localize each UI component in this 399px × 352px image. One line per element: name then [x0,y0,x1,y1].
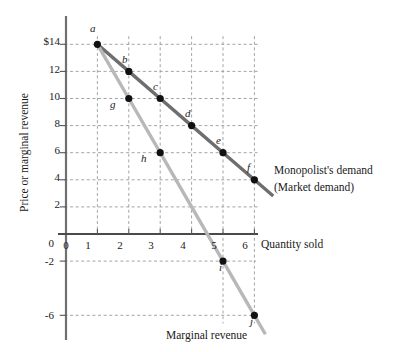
point-label-e: e [216,135,221,146]
marginal-revenue-curve-label: Marginal revenue [166,330,247,342]
point-label-i: i [219,262,222,273]
gridlines-group [64,36,257,323]
y-tick-label-12: 12 [24,64,60,75]
data-point-a [94,41,101,48]
x-tick-label-5: 5 [206,240,222,251]
y-tick-label-14: $14 [24,36,60,47]
point-label-h: h [141,153,147,164]
x-tick-label-2: 2 [112,240,128,251]
data-point-f [251,176,258,183]
y-tick-label-2: 2 [24,199,60,210]
x-tick-label-3: 3 [143,240,159,251]
marginal-revenue-curve-line [97,44,265,334]
y-tick-label-0: 0 [24,238,54,249]
data-point-d [188,122,195,129]
x-tick-label-0: 0 [58,240,74,251]
data-point-b [125,68,132,75]
data-series-group [97,44,273,334]
point-label-b: b [122,54,128,65]
y-tick-label-10: 10 [24,91,60,102]
demand-curve-label-line2: (Market demand) [274,182,354,194]
x-tick-label-1: 1 [80,240,96,251]
y-tick-label-minus2: -2 [20,256,54,267]
x-tick-label-4: 4 [175,240,191,251]
y-tick-label-8: 8 [24,118,60,129]
demand-curve-label-line1: Monopolist's demand [274,165,373,177]
point-label-a: a [90,23,96,34]
point-label-c: c [153,81,158,92]
y-tick-label-4: 4 [24,172,60,183]
point-label-g: g [110,99,116,110]
y-tick-label-minus6: -6 [20,310,54,321]
point-label-j: j [250,316,253,327]
data-point-g [125,95,132,102]
point-label-d: d [185,108,191,119]
data-point-c [157,95,164,102]
chart-container: Price or marginal revenue Quantity sold … [0,0,399,352]
point-label-f: f [247,162,250,173]
demand-curve-line [97,44,273,196]
y-tick-label-6: 6 [24,145,60,156]
x-tick-label-6: 6 [237,240,253,251]
data-point-h [157,149,164,156]
x-axis-title: Quantity sold [261,239,323,251]
data-point-e [219,149,226,156]
